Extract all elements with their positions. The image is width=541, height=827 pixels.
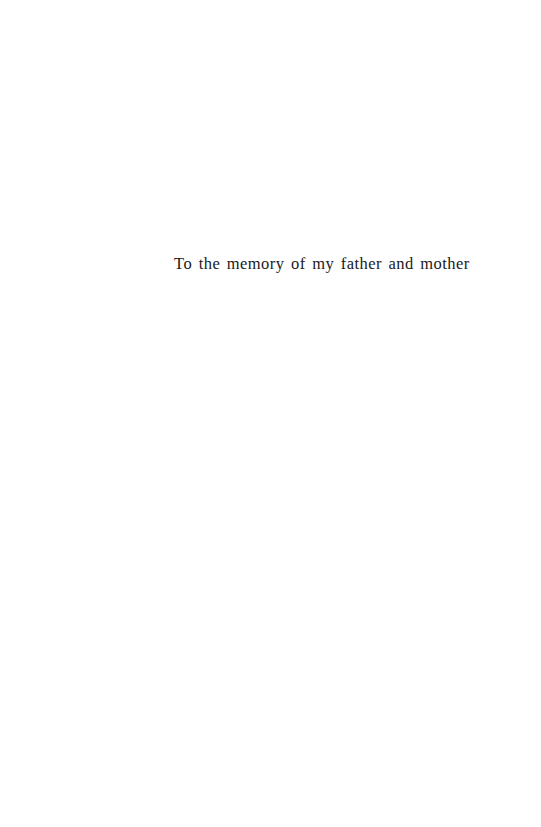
dedication-text: To the memory of my father and mother: [174, 254, 470, 274]
dedication-page: To the memory of my father and mother: [0, 0, 541, 827]
